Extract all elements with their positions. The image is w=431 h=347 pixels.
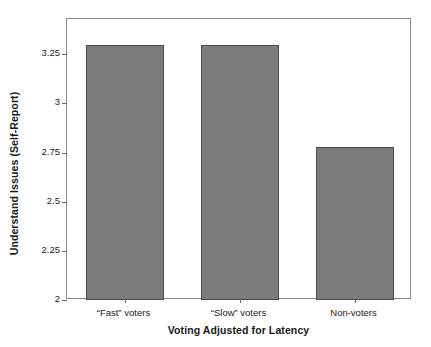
y-axis-tick [62,251,67,252]
x-axis-tick-label: “Slow” voters [179,307,299,318]
plot-area [67,19,410,298]
plot-frame [66,18,411,299]
bar [316,147,394,300]
y-axis-tick-label: 2.25 [8,244,60,255]
y-axis-tick-label: 2.75 [8,146,60,157]
bar-chart-figure: Understand Issues (Self-Report) Voting A… [0,0,431,347]
x-axis-title: Voting Adjusted for Latency [66,324,411,336]
y-axis-tick-label: 2.5 [8,195,60,206]
y-axis-tick [62,103,67,104]
y-axis-tick [62,54,67,55]
bar [86,45,164,300]
y-axis-tick-label: 3 [8,96,60,107]
y-axis-tick-label: 2 [8,293,60,304]
bar [201,45,279,300]
y-axis-tick [62,202,67,203]
y-axis-tick-label: 3.25 [8,47,60,58]
y-axis-tick [62,300,67,301]
x-axis-tick-label: “Fast” voters [64,307,184,318]
x-axis-tick-label: Non-voters [294,307,414,318]
x-axis-tick [355,298,356,303]
x-axis-tick [125,298,126,303]
x-axis-tick [240,298,241,303]
y-axis-tick [62,153,67,154]
